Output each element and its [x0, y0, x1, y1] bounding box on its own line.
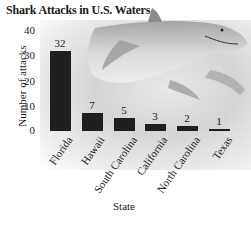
bar-texas — [209, 129, 230, 131]
value-label-north-carolina: 2 — [175, 112, 199, 124]
value-label-south-carolina: 5 — [112, 104, 136, 116]
bar-south-carolina — [114, 118, 135, 131]
value-label-california: 3 — [143, 110, 167, 122]
y-tick-30: 30 — [15, 49, 35, 61]
bar-florida — [50, 51, 71, 131]
bar-california — [145, 124, 166, 131]
x-axis-label: State — [113, 200, 135, 212]
y-tick-0: 0 — [15, 124, 35, 136]
y-tick-40: 40 — [15, 24, 35, 36]
bar-hawaii — [82, 113, 103, 131]
y-tick-20: 20 — [15, 75, 35, 87]
value-label-florida: 32 — [48, 37, 72, 49]
value-label-hawaii: 7 — [80, 99, 104, 111]
y-tick-10: 10 — [15, 100, 35, 112]
value-label-texas: 1 — [207, 115, 231, 127]
bar-north-carolina — [177, 126, 198, 131]
